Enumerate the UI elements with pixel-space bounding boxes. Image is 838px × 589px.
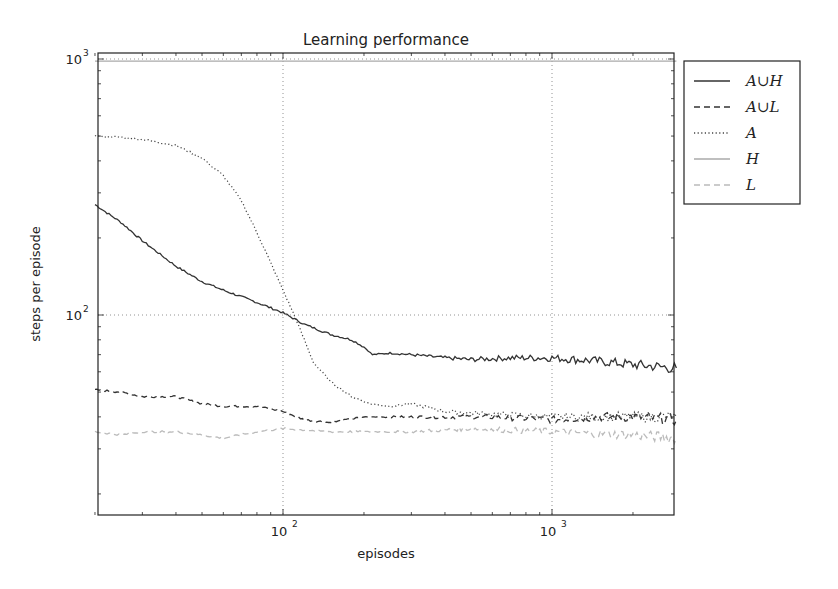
tick-labels: 102103102103 bbox=[65, 48, 566, 539]
y-tick-label: 10 bbox=[65, 308, 82, 323]
legend: A∪HA∪LAHL bbox=[684, 61, 800, 204]
y-tick-label: 10 bbox=[65, 52, 82, 67]
legend-label: A∪H bbox=[744, 72, 783, 90]
series-line-2 bbox=[95, 136, 676, 423]
series-line-1 bbox=[95, 389, 676, 425]
legend-label: A bbox=[744, 124, 757, 142]
svg-text:3: 3 bbox=[83, 48, 89, 58]
chart: Learning performance episodes steps per … bbox=[0, 0, 838, 589]
chart-title: Learning performance bbox=[303, 31, 469, 49]
svg-text:2: 2 bbox=[83, 304, 89, 314]
x-tick-label: 10 bbox=[271, 524, 288, 539]
plot-frame bbox=[98, 53, 674, 515]
tick-marks bbox=[95, 53, 674, 515]
y-axis-label: steps per episode bbox=[28, 226, 43, 342]
svg-text:3: 3 bbox=[561, 519, 567, 529]
svg-text:2: 2 bbox=[292, 519, 298, 529]
legend-label: H bbox=[745, 150, 760, 168]
series-group bbox=[95, 61, 676, 443]
x-tick-label: 10 bbox=[540, 524, 557, 539]
grid-lines bbox=[98, 53, 674, 515]
x-axis-label: episodes bbox=[357, 546, 415, 561]
legend-label: A∪L bbox=[744, 98, 779, 116]
series-line-4 bbox=[95, 427, 676, 443]
series-line-0 bbox=[95, 205, 676, 373]
legend-label: L bbox=[745, 176, 756, 194]
